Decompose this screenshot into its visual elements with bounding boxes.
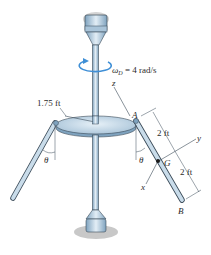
- dim-upper-label: 2 ft: [157, 128, 170, 138]
- dim-lower-label: 2 ft: [180, 167, 193, 177]
- disk-radius-label: 1.75 ft: [37, 98, 61, 108]
- z-axis: [114, 87, 130, 116]
- top-bearing-cap: [83, 12, 109, 45]
- bottom-base: [74, 210, 118, 239]
- y-axis: [157, 139, 196, 162]
- left-rod: [13, 123, 55, 198]
- diagram-canvas: ωD = 4 rad/s z θ 1.75 ft A θ 2 ft 2 f: [0, 0, 211, 255]
- x-axis-label: x: [140, 182, 145, 192]
- right-angle-theta: θ: [139, 155, 144, 165]
- x-axis: [146, 161, 158, 184]
- point-g-label: G: [164, 158, 171, 168]
- vertical-shaft-lower: [93, 135, 99, 210]
- center-of-mass-G: [156, 159, 160, 163]
- angular-velocity-label: ωD = 4 rad/s: [112, 65, 157, 76]
- left-angle-theta: θ: [44, 155, 49, 165]
- y-axis-label: y: [196, 133, 201, 143]
- vertical-shaft-upper: [93, 45, 99, 120]
- point-a-label: A: [131, 110, 138, 120]
- z-axis-label: z: [111, 78, 116, 88]
- point-b-label: B: [178, 206, 184, 216]
